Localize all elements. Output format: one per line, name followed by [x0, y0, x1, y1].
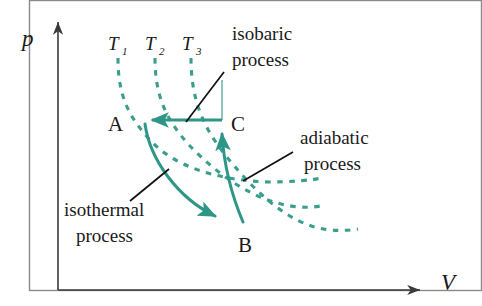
process-curve-isothermal-a-to-b [145, 124, 215, 216]
state-label-b: B [238, 233, 252, 257]
isotherm-label-t1-text: T [108, 33, 120, 54]
annotation-adiabatic: adiabatic process [300, 127, 369, 174]
state-label-c: C [231, 112, 245, 136]
isothermal-leader-line [130, 169, 169, 201]
figure-frame [30, 1, 482, 291]
isotherm-label-t3: T 3 [182, 33, 202, 57]
isotherm-label-t3-text: T [182, 33, 194, 54]
isotherm-label-t1: T 1 [108, 33, 128, 57]
isobaric-leader-line [186, 72, 224, 122]
isotherm-label-t1-sub: 1 [122, 45, 128, 57]
annotation-adiabatic-line1: adiabatic [300, 127, 369, 148]
isotherm-label-t2-sub: 2 [159, 45, 165, 57]
x-axis-label: V [441, 270, 458, 295]
annotation-isobaric-line2: process [232, 49, 289, 70]
annotation-isobaric-line1: isobaric [232, 23, 292, 44]
y-axis-label: p [20, 26, 34, 51]
state-label-a: A [108, 112, 124, 136]
isotherm-label-t2-text: T [145, 33, 157, 54]
annotation-isothermal-line1: isothermal [64, 199, 144, 220]
isotherm-label-t3-sub: 3 [195, 45, 202, 57]
pv-diagram-figure: p V T 1 T 2 T 3 A B C [0, 0, 482, 306]
diagram-canvas: p V T 1 T 2 T 3 A B C [0, 0, 482, 306]
adiabatic-leader-line [243, 152, 293, 181]
annotation-isobaric: isobaric process [232, 23, 292, 70]
annotation-isothermal: isothermal process [64, 199, 144, 246]
annotation-adiabatic-line2: process [304, 153, 361, 174]
isotherm-label-t2: T 2 [145, 33, 165, 57]
annotation-isothermal-line2: process [76, 225, 133, 246]
